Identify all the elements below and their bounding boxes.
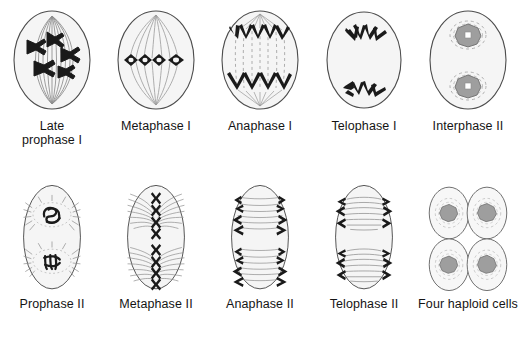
stage-panel-telophase-i: Telophase I	[312, 4, 416, 133]
haploid-cell-bottom-left	[429, 239, 469, 291]
haploid-cell-top-right	[467, 187, 507, 239]
four-haploid-cells-art	[416, 182, 520, 294]
stage-panel-metaphase-i: Metaphase I	[104, 4, 208, 133]
stage-panel-four-haploid-cells: Four haploid cells	[416, 182, 520, 311]
stage-panel-late-prophase-i: Late prophase I	[0, 4, 104, 147]
stage-panel-interphase-ii: Interphase II	[416, 4, 520, 133]
stage-label-anaphase-i: Anaphase I	[208, 119, 312, 133]
interphase-ii-art	[416, 4, 520, 116]
stage-panel-anaphase-ii: Anaphase II	[208, 182, 312, 311]
late-prophase-i-art	[0, 4, 104, 116]
metaphase-i-art	[104, 4, 208, 116]
stage-label-prophase-ii: Prophase II	[0, 297, 104, 311]
metaphase-ii-art	[104, 182, 208, 294]
stage-panel-metaphase-ii: Metaphase II	[104, 182, 208, 311]
prophase-ii-art	[0, 182, 104, 294]
stage-label-metaphase-ii: Metaphase II	[104, 297, 208, 311]
stage-label-anaphase-ii: Anaphase II	[208, 297, 312, 311]
stage-panel-prophase-ii: Prophase II	[0, 182, 104, 311]
telophase-i-art	[312, 4, 416, 116]
stage-panel-anaphase-i: Anaphase I	[208, 4, 312, 133]
anaphase-i-art	[208, 4, 312, 116]
stage-label-telophase-ii: Telophase II	[312, 297, 416, 311]
telophase-ii-art	[312, 182, 416, 294]
meiosis-figure: Late prophase I	[0, 0, 520, 356]
haploid-cell-top-left	[429, 187, 469, 239]
stage-label-four-haploid-cells: Four haploid cells	[405, 297, 520, 311]
anaphase-ii-art	[208, 182, 312, 294]
stage-panel-telophase-ii: Telophase II	[312, 182, 416, 311]
haploid-cell-bottom-right	[467, 239, 507, 291]
stage-label-interphase-ii: Interphase II	[416, 119, 520, 133]
stage-label-telophase-i: Telophase I	[312, 119, 416, 133]
stage-label-metaphase-i: Metaphase I	[104, 119, 208, 133]
stage-label-late-prophase-i: Late prophase I	[0, 119, 104, 147]
